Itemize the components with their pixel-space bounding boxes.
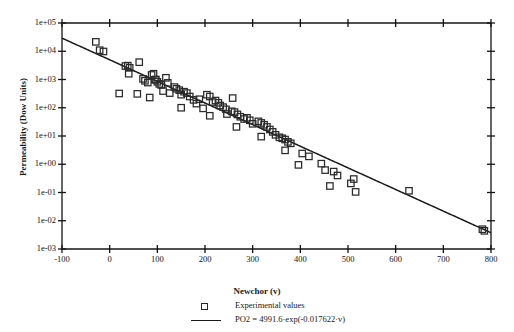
- y-tick-label: 1e-03: [12, 243, 56, 253]
- data-point-marker: [178, 105, 184, 111]
- y-tick-label: 1e+05: [12, 17, 56, 27]
- legend-item-experimental: Experimental values: [183, 300, 443, 314]
- data-point-marker: [406, 188, 412, 194]
- x-axis-title: Newchor (v): [0, 286, 514, 296]
- data-point-marker: [134, 91, 140, 97]
- x-tick-label: 800: [471, 254, 511, 264]
- plot-canvas: [0, 0, 514, 332]
- x-tick-label: 0: [90, 254, 130, 264]
- y-axis-title: Permeability (Dow Units): [18, 52, 28, 202]
- legend-label-fit-equation: PO2 = 4991.6·exp(-0.017622·v): [235, 314, 345, 324]
- x-tick-label: 600: [376, 254, 416, 264]
- line-marker-icon: [191, 320, 221, 321]
- permeability-vs-newchor-chart: 1e-031e-021e-011e+001e+011e+021e+031e+04…: [0, 0, 514, 332]
- data-point-marker: [233, 124, 239, 130]
- x-tick-label: -100: [42, 254, 82, 264]
- data-point-marker: [352, 189, 358, 195]
- data-point-marker: [207, 113, 213, 119]
- legend-label-experimental: Experimental values: [235, 300, 305, 310]
- data-point-marker: [160, 88, 166, 94]
- x-tick-label: 500: [328, 254, 368, 264]
- x-tick-label: 700: [423, 254, 463, 264]
- data-point-marker: [147, 94, 153, 100]
- data-point-marker: [93, 39, 99, 45]
- open-square-marker-icon: [201, 303, 208, 310]
- data-point-marker: [282, 147, 288, 153]
- x-tick-label: 300: [233, 254, 273, 264]
- data-point-marker: [327, 183, 333, 189]
- data-point-marker: [200, 105, 206, 111]
- data-point-marker: [136, 59, 142, 65]
- x-tick-label: 400: [280, 254, 320, 264]
- x-tick-label: 100: [137, 254, 177, 264]
- data-point-marker: [322, 167, 328, 173]
- x-tick-label: 200: [185, 254, 225, 264]
- data-point-marker: [258, 133, 264, 139]
- data-point-marker: [229, 95, 235, 101]
- y-tick-label: 1e-02: [12, 215, 56, 225]
- data-point-marker: [295, 162, 301, 168]
- legend-item-fit-equation: PO2 = 4991.6·exp(-0.017622·v): [183, 314, 443, 328]
- data-point-marker: [299, 150, 305, 156]
- data-point-marker: [116, 90, 122, 96]
- data-point-marker: [306, 153, 312, 159]
- data-point-marker: [318, 160, 324, 166]
- chart-legend: Experimental values PO2 = 4991.6·exp(-0.…: [183, 300, 443, 328]
